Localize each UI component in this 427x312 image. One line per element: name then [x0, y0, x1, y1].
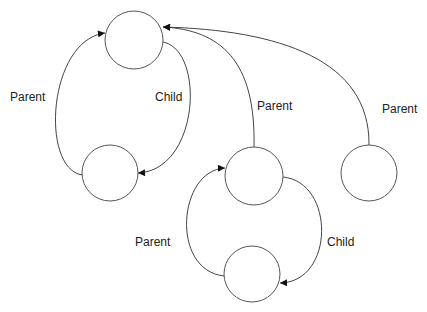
node-middle — [225, 147, 283, 205]
label-left-child: Child — [155, 90, 182, 104]
label-left-parent: Parent — [10, 90, 46, 104]
label-bottom-child: Child — [327, 235, 354, 249]
node-bottom — [224, 246, 280, 302]
label-middle-parent: Parent — [257, 99, 293, 113]
edge-n5-to-n3-parent — [187, 168, 225, 276]
node-right — [341, 145, 397, 201]
edge-n4-to-n1-parent — [163, 27, 369, 145]
edge-n3-to-n5-child — [280, 177, 322, 283]
label-bottom-parent: Parent — [135, 235, 171, 249]
node-left-child — [82, 145, 138, 201]
node-root — [105, 11, 163, 69]
edge-n3-to-n1-parent — [163, 27, 254, 147]
diagram-canvas: Parent Child Parent Parent Parent Child — [0, 0, 427, 312]
diagram-svg: Parent Child Parent Parent Parent Child — [0, 0, 427, 312]
label-right-parent: Parent — [382, 102, 418, 116]
